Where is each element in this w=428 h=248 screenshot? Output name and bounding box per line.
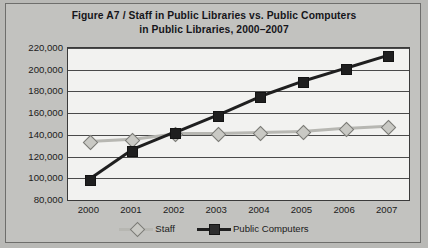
legend-key (197, 224, 231, 234)
y-axis-tick-label: 180,000 (9, 85, 63, 96)
title-separator: / (120, 10, 129, 21)
data-point-marker (253, 126, 269, 142)
y-axis-tick-label: 200,000 (9, 63, 63, 74)
data-point-marker (296, 125, 312, 141)
legend-label: Staff (153, 223, 175, 234)
y-axis-tick-label: 100,000 (9, 172, 63, 183)
legend-key (119, 224, 153, 234)
gridline (68, 135, 409, 136)
figure-label: Figure A7 (72, 10, 120, 21)
gridline (68, 178, 409, 179)
x-axis-tick-label: 2005 (280, 204, 322, 215)
data-point-marker (383, 51, 394, 62)
x-axis: 20002001200220032004200520062007 (67, 204, 410, 220)
data-point-marker (381, 119, 397, 135)
x-axis-tick-label: 2007 (366, 204, 408, 215)
chart-legend: StaffPublic Computers (6, 222, 422, 234)
y-axis-tick-label: 120,000 (9, 150, 63, 161)
y-axis-tick-label: 80,000 (9, 194, 63, 205)
data-point-marker (298, 77, 309, 88)
figure-container: Figure A7/Staff in Public Libraries vs. … (5, 3, 421, 243)
gridline (68, 48, 409, 49)
y-axis-tick-label: 140,000 (9, 128, 63, 139)
x-axis-tick-label: 2006 (323, 204, 365, 215)
x-axis-tick-label: 2002 (153, 204, 195, 215)
plot-area (67, 47, 410, 201)
legend-label: Public Computers (231, 223, 309, 234)
y-axis-tick-label: 220,000 (9, 42, 63, 53)
figure-title: Figure A7/Staff in Public Libraries vs. … (6, 9, 422, 36)
data-point-marker (85, 175, 96, 186)
y-axis-tick-label: 160,000 (9, 107, 63, 118)
data-point-marker (83, 135, 99, 151)
legend-diamond-icon (130, 222, 146, 238)
legend-square-icon (209, 224, 220, 235)
legend-item-public-computers[interactable]: Public Computers (197, 222, 309, 234)
y-axis: 220,000200,000180,000160,000140,000120,0… (6, 47, 63, 201)
gridline (68, 70, 409, 71)
x-axis-tick-label: 2004 (238, 204, 280, 215)
data-point-marker (210, 127, 226, 143)
figure-title-line2: in Public Libraries, 2000–2007 (139, 24, 289, 35)
figure-title-line1: Staff in Public Libraries vs. Public Com… (129, 10, 357, 21)
gridline (68, 113, 409, 114)
data-point-marker (170, 128, 181, 139)
x-axis-tick-label: 2000 (67, 204, 109, 215)
x-axis-tick-label: 2001 (110, 204, 152, 215)
data-point-marker (127, 146, 138, 157)
gridline (68, 91, 409, 92)
data-point-marker (213, 111, 224, 122)
data-point-marker (341, 64, 352, 75)
x-axis-tick-label: 2003 (195, 204, 237, 215)
data-point-marker (255, 92, 266, 103)
legend-item-staff[interactable]: Staff (119, 222, 175, 234)
